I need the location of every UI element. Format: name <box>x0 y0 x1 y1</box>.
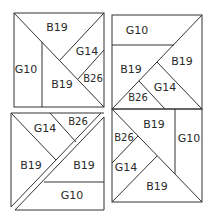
patch-label: B19 <box>46 21 68 34</box>
patch-label: B19 <box>146 180 168 193</box>
patch-label: B26 <box>114 132 134 143</box>
block-bottom-right: B19 B26 G10 G14 B19 <box>112 109 202 202</box>
patch-label: G14 <box>115 161 138 174</box>
patch-label: G10 <box>15 63 38 76</box>
block-bottom-left: G14 B26 B19 B19 G10 <box>11 113 104 210</box>
diagonal-line <box>11 113 56 160</box>
patch-label: B19 <box>171 55 193 68</box>
patch-label: B19 <box>20 159 42 172</box>
patch-label: B26 <box>128 92 148 103</box>
patch-label: G10 <box>178 132 201 145</box>
quilt-diagram: B19 G10 G14 B19 B26 G10 B19 B19 G14 B26 <box>0 0 213 221</box>
block-top-left: B19 G10 G14 B19 B26 <box>14 13 104 107</box>
patch-label: G10 <box>61 189 84 202</box>
patch-label: B19 <box>143 118 165 131</box>
patch-label: B19 <box>51 78 73 91</box>
patch-label: G10 <box>126 24 149 37</box>
patch-label: B26 <box>83 73 103 84</box>
patch-label: B26 <box>68 116 88 127</box>
patch-label: G14 <box>154 81 177 94</box>
patch-label: B19 <box>73 159 95 172</box>
block-top-right: G10 B19 B19 G14 B26 <box>112 15 202 109</box>
patch-label: G14 <box>76 45 99 58</box>
patch-label: B19 <box>120 63 142 76</box>
patch-label: G14 <box>34 122 57 135</box>
